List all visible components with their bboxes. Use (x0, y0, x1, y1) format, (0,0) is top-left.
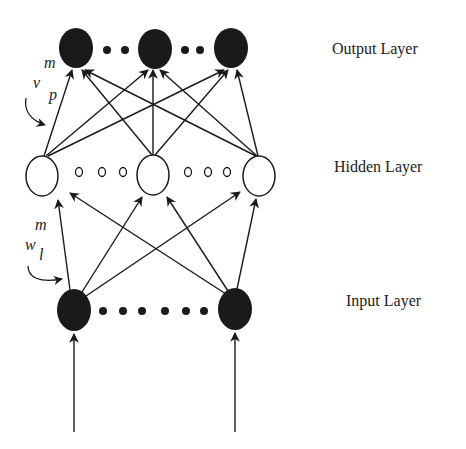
input-node (57, 289, 91, 331)
output-layer-label: Output Layer (332, 40, 418, 58)
hidden-to-output-connections (44, 70, 258, 156)
external-input-arrows (74, 333, 235, 432)
weight-w-subscript: l (39, 246, 43, 264)
input-to-hidden-connections (58, 192, 256, 296)
weight-w-superscript: m (35, 216, 47, 234)
hidden-node (137, 155, 169, 195)
weight-v-superscript: m (44, 54, 56, 72)
input-layer-label: Input Layer (346, 292, 421, 310)
neural-network-diagram (0, 0, 466, 449)
hidden-layer-label: Hidden Layer (334, 158, 422, 176)
input-ellipsis-dots (99, 307, 208, 315)
weight-v-pointer (26, 98, 45, 125)
weight-w-symbol: w (25, 236, 36, 254)
hidden-node (243, 156, 275, 196)
output-node (59, 28, 93, 68)
weight-v-subscript: p (49, 86, 57, 104)
output-node (138, 29, 172, 69)
output-node (214, 28, 248, 68)
output-layer (59, 28, 248, 69)
weight-w-pointer (28, 266, 62, 280)
input-node (218, 288, 252, 330)
weight-v-symbol: v (33, 74, 40, 92)
hidden-node (26, 156, 58, 196)
hidden-layer (26, 155, 275, 196)
input-layer (57, 288, 252, 331)
